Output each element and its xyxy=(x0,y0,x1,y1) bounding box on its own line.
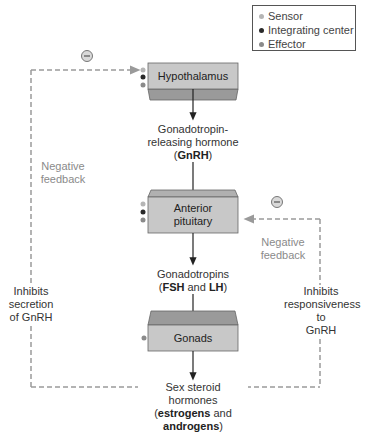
hypothalamus-dots xyxy=(141,68,146,88)
effector-dot-icon xyxy=(259,42,264,47)
legend-item-sensor: Sensor xyxy=(259,9,355,23)
fsh-label: FSH xyxy=(162,281,184,293)
effector-dot xyxy=(141,83,146,88)
integrating-center-dot-icon xyxy=(259,28,264,33)
sensor-dot xyxy=(141,202,146,207)
hpg-axis-diagram: Sensor Integrating center Effector Hypot… xyxy=(0,0,368,438)
right-inhibits-responsiveness-label: Inhibits responsiveness to GnRH xyxy=(284,285,358,337)
androgens-label: androgens xyxy=(163,420,219,432)
minus-circle-icon-right xyxy=(272,197,283,208)
sensor-dot-icon xyxy=(259,14,264,19)
legend: Sensor Integrating center Effector xyxy=(252,5,356,51)
gnrh-abbr: GnRH xyxy=(177,149,208,161)
left-inhibits-secretion-label: Inhibits secretion of GnRH xyxy=(6,285,56,324)
gonads-box xyxy=(148,311,238,351)
minus-circle-icon-left xyxy=(82,51,93,62)
gonads-effector-dot xyxy=(142,336,147,341)
effector-dot xyxy=(141,218,146,223)
anterior-pituitary-label: Anterior pituitary xyxy=(148,202,238,228)
anterior-pituitary-dots xyxy=(141,202,146,223)
integrating-center-dot xyxy=(141,75,146,80)
gonads-label: Gonads xyxy=(148,332,238,345)
gnrh-label: Gonadotropin- releasing hormone (GnRH) xyxy=(133,123,253,162)
lh-label: LH xyxy=(209,281,224,293)
hypothalamus-label: Hypothalamus xyxy=(148,70,238,83)
sex-steroid-label: Sex steroid hormones (estrogens and andr… xyxy=(138,381,248,433)
gonadotropins-label: Gonadotropins (FSH and LH) xyxy=(133,268,253,294)
legend-item-integrating-center: Integrating center xyxy=(259,23,355,37)
estrogens-label: estrogens xyxy=(158,407,211,419)
sensor-dot xyxy=(141,68,146,73)
right-negative-feedback-label: Negative feedback xyxy=(258,236,308,262)
integrating-center-dot xyxy=(141,210,146,215)
left-negative-feedback-label: Negative feedback xyxy=(38,160,88,186)
legend-item-effector: Effector xyxy=(259,37,355,51)
